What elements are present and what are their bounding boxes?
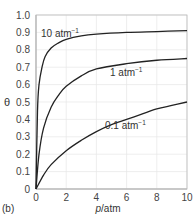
x-tick-label: 2 — [63, 192, 69, 203]
y-tick-label: 0.3 — [16, 131, 30, 142]
gridlines — [36, 15, 187, 189]
isotherm-curve-0 — [36, 31, 187, 189]
y-tick-label: 0.1 — [16, 166, 30, 177]
y-tick-label: 1.0 — [16, 10, 30, 21]
langmuir-isotherm-chart: 00.10.20.30.40.50.60.70.80.91.0 0246810 … — [0, 0, 195, 216]
isotherm-curves — [36, 31, 187, 189]
curve-label: 1 atm−1 — [110, 66, 143, 78]
x-tick-label: 10 — [181, 192, 193, 203]
x-tick-label: 8 — [154, 192, 160, 203]
x-tick-label: 0 — [33, 192, 39, 203]
y-tick-label: 0.5 — [16, 97, 30, 108]
y-tick-label: 0.7 — [16, 62, 30, 73]
curve-label: 0.1 atm−1 — [105, 119, 146, 131]
y-tick-label: 0.2 — [16, 149, 30, 160]
y-axis-label: θ — [4, 96, 10, 108]
y-tick-label: 0.6 — [16, 79, 30, 90]
y-tick-label: 0.4 — [16, 114, 30, 125]
y-tick-label: 0.8 — [16, 44, 30, 55]
y-axis-ticks: 00.10.20.30.40.50.60.70.80.91.0 — [16, 10, 30, 195]
x-tick-label: 6 — [124, 192, 130, 203]
isotherm-curve-2 — [36, 102, 187, 189]
x-axis-ticks: 0246810 — [33, 192, 193, 203]
y-tick-label: 0.9 — [16, 27, 30, 38]
curve-labels: 10 atm−11 atm−10.1 atm−1 — [41, 27, 146, 131]
panel-label: (b) — [2, 203, 14, 214]
y-tick-label: 0 — [24, 184, 30, 195]
x-axis-label: p/atm — [94, 203, 120, 214]
x-tick-label: 4 — [94, 192, 100, 203]
